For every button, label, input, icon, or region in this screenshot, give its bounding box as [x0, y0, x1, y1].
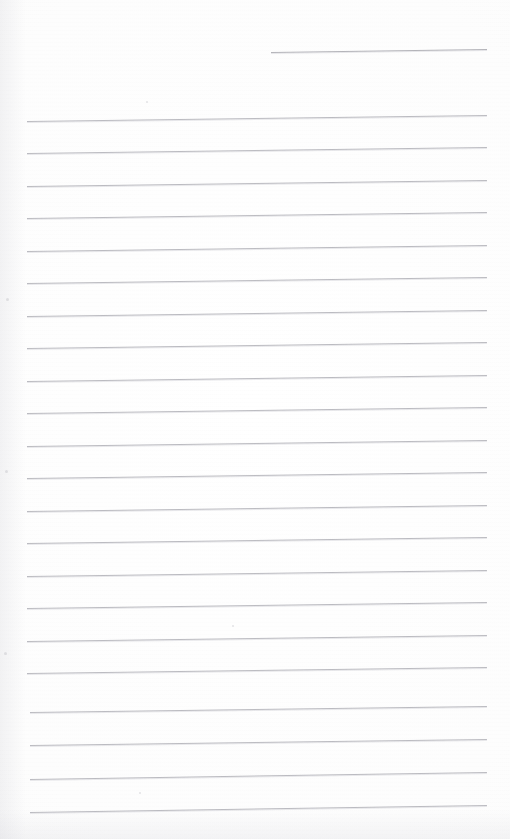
- ruled-line: [27, 440, 487, 447]
- ruled-line: [30, 772, 487, 780]
- ruled-line: [27, 505, 487, 512]
- ruled-line: [27, 667, 487, 674]
- ruled-line: [27, 212, 487, 219]
- ruled-line: [27, 115, 487, 122]
- ruled-line: [27, 635, 487, 642]
- ruled-line: [27, 602, 487, 609]
- ruled-line: [27, 537, 487, 544]
- ruled-line: [27, 147, 487, 154]
- ruled-line: [30, 739, 487, 746]
- ruled-line: [27, 342, 487, 349]
- ruled-line: [30, 805, 487, 813]
- ruled-line: [27, 310, 487, 317]
- ruled-line: [27, 472, 487, 479]
- ruled-line: [30, 706, 487, 713]
- ruled-line: [27, 570, 487, 577]
- ruled-line: [27, 407, 487, 414]
- scanned-page: [0, 0, 510, 839]
- ruled-lines-layer: [0, 0, 510, 839]
- ruled-line: [27, 245, 487, 252]
- ruled-line: [27, 375, 487, 382]
- ruled-line: [27, 277, 487, 284]
- ruled-line: [27, 180, 487, 187]
- partial-ruled-line: [271, 49, 487, 53]
